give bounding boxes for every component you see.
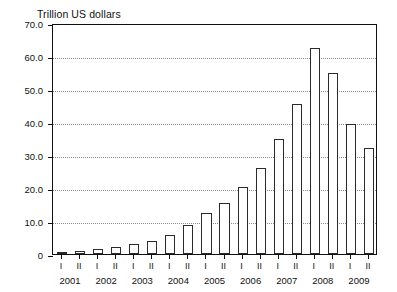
year-label: 2004	[168, 275, 189, 286]
bar	[75, 251, 85, 254]
y-axis-tick	[48, 124, 53, 125]
semester-label: II	[221, 261, 226, 271]
x-axis-tick	[224, 255, 225, 259]
x-axis-tick	[187, 255, 188, 259]
year-label: 2008	[312, 275, 333, 286]
semester-label: I	[240, 261, 243, 271]
semester-label: I	[132, 261, 135, 271]
bar	[346, 124, 356, 254]
bar	[238, 187, 248, 254]
year-label: 2005	[204, 275, 225, 286]
semester-label: I	[276, 261, 279, 271]
semester-label: II	[365, 261, 370, 271]
semester-label: I	[349, 261, 352, 271]
bar	[129, 244, 139, 254]
bar	[219, 203, 229, 254]
x-axis-tick	[368, 255, 369, 259]
x-axis-tick	[260, 255, 261, 259]
x-axis-tick	[296, 255, 297, 259]
bar	[364, 148, 374, 254]
semester-label: II	[113, 261, 118, 271]
x-axis-tick	[314, 255, 315, 259]
bar	[256, 168, 266, 254]
bar	[183, 225, 193, 254]
x-axis-tick	[151, 255, 152, 259]
y-axis-label: 10.0	[0, 217, 43, 228]
plot-area	[52, 24, 377, 255]
y-axis-tick	[48, 157, 53, 158]
semester-label: I	[204, 261, 207, 271]
year-label: 2009	[348, 275, 369, 286]
bar	[274, 139, 284, 255]
bar-chart: Trillion US dollars IIIIIIIIIIIIIIIIIIII…	[0, 0, 397, 292]
semester-label: I	[96, 261, 99, 271]
y-axis-label: 20.0	[0, 184, 43, 195]
x-axis-tick	[133, 255, 134, 259]
x-axis-tick	[97, 255, 98, 259]
y-axis-label: 30.0	[0, 151, 43, 162]
year-label: 2003	[132, 275, 153, 286]
x-axis-tick	[79, 255, 80, 259]
x-axis-tick	[205, 255, 206, 259]
x-axis-tick	[242, 255, 243, 259]
year-label: 2006	[240, 275, 261, 286]
semester-label: II	[293, 261, 298, 271]
bar	[292, 104, 302, 254]
chart-axis-title: Trillion US dollars	[37, 8, 121, 20]
y-axis-tick	[48, 25, 53, 26]
y-axis-tick	[48, 190, 53, 191]
x-axis: IIIIIIIIIIIIIIIIIIIIIIIIIII2001200220032…	[52, 255, 377, 292]
bar	[310, 48, 320, 254]
x-axis-tick	[332, 255, 333, 259]
y-axis-tick	[48, 223, 53, 224]
x-axis-tick	[350, 255, 351, 259]
semester-label: II	[149, 261, 154, 271]
semester-label: I	[60, 261, 63, 271]
year-label: 2007	[276, 275, 297, 286]
semester-label: II	[257, 261, 262, 271]
plot-inner	[53, 25, 376, 254]
y-axis-label: 70.0	[0, 19, 43, 30]
y-axis-label: 60.0	[0, 52, 43, 63]
bar	[93, 249, 103, 254]
semester-label: I	[313, 261, 316, 271]
bar	[111, 247, 121, 254]
semester-label: I	[168, 261, 171, 271]
y-axis-label: 50.0	[0, 85, 43, 96]
y-axis-label: 40.0	[0, 118, 43, 129]
x-axis-tick	[61, 255, 62, 259]
x-axis-tick	[115, 255, 116, 259]
x-axis-tick	[169, 255, 170, 259]
semester-label: II	[329, 261, 334, 271]
year-label: 2002	[96, 275, 117, 286]
bar	[147, 241, 157, 254]
semester-label: II	[185, 261, 190, 271]
semester-label: II	[77, 261, 82, 271]
y-axis-label: 0	[0, 250, 43, 261]
bar	[165, 235, 175, 254]
x-axis-tick	[278, 255, 279, 259]
bar	[328, 73, 338, 255]
year-label: 2001	[59, 275, 80, 286]
gridline-60.0	[53, 58, 376, 59]
y-axis-tick	[48, 91, 53, 92]
bar	[57, 252, 67, 254]
bar	[201, 213, 211, 254]
y-axis-tick	[48, 58, 53, 59]
